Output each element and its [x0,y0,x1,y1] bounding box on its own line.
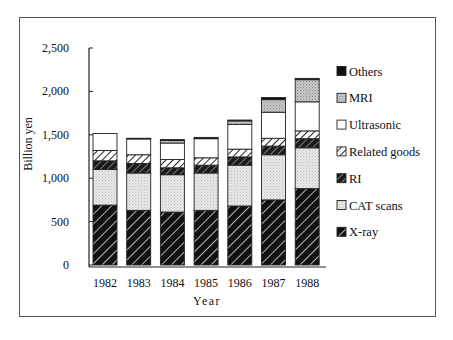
bar-segment-mri [228,121,252,124]
x-tick-label: 1986 [228,276,252,290]
bar-segment-ri [295,139,319,148]
x-tick-label: 1985 [194,276,218,290]
legend-swatch-icon [337,174,346,183]
y-axis-title: Billion yen [21,117,35,171]
legend-item-mri: MRI [337,91,373,105]
bar-segment-cat-scans [262,155,286,200]
bar-segment-ri [127,163,151,173]
bar-segment-others [262,97,286,99]
y-tick-label: 2,500 [42,41,69,55]
legend-item-x-ray: X-ray [337,225,379,239]
legend-swatch-icon [337,67,346,76]
legend-label: Ultrasonic [349,118,402,132]
bar-segment-cat-scans [228,165,252,206]
bar-1988 [295,78,319,265]
bar-1987 [262,97,286,265]
bar-segment-ultrasonic [228,124,252,149]
bar-segment-ri [160,168,184,175]
bar-segment-others [194,137,218,138]
legend-swatch-icon [337,227,346,236]
bar-segment-x-ray [93,205,117,265]
legend-swatch-icon [337,147,346,156]
legend-item-ri: RI [337,172,362,186]
bar-segment-x-ray [295,189,319,265]
legend-label: Others [349,65,382,79]
bar-segment-cat-scans [93,170,117,206]
bar-1984 [160,140,184,265]
bar-segment-cat-scans [194,173,218,210]
bar-segment-related-goods [93,150,117,160]
bar-segment-others [127,138,151,139]
y-tick-label: 2,000 [42,84,69,98]
bar-segment-cat-scans [295,148,319,189]
bar-segment-others [295,78,319,79]
bar-1983 [127,138,151,265]
bar-segment-x-ray [262,200,286,265]
x-tick-label: 1984 [160,276,184,290]
bar-segment-ultrasonic [262,112,286,138]
legend-swatch-icon [337,93,346,102]
legend-item-cat-scans: CAT scans [337,199,403,213]
x-tick-label: 1982 [93,276,117,290]
bar-segment-related-goods [127,155,151,164]
bar-segment-related-goods [194,158,218,165]
bar-segment-others [228,120,252,121]
legend-swatch-icon [337,201,346,210]
bar-1982 [93,133,117,265]
bar-segment-mri [262,100,286,113]
bar-segment-related-goods [160,160,184,168]
y-tick-label: 500 [51,215,69,229]
y-tick-label: 0 [63,258,69,272]
legend-label: Related goods [349,145,420,159]
bar-segment-x-ray [228,206,252,265]
bar-segment-ultrasonic [127,139,151,155]
bar-segment-ri [228,157,252,165]
chart-legend: OthersMRIUltrasonicRelated goodsRICAT sc… [337,65,420,240]
bar-segment-ultrasonic [93,133,117,150]
x-tick-label: 1983 [127,276,151,290]
legend-label: X-ray [349,225,379,239]
bar-segment-related-goods [295,131,319,139]
legend-item-others: Others [337,65,382,79]
legend-item-related-goods: Related goods [337,145,420,159]
y-tick-label: 1,000 [42,171,69,185]
bar-segment-ultrasonic [160,143,184,159]
bar-segment-ultrasonic [194,139,218,158]
legend-label: CAT scans [349,199,403,213]
bar-segment-related-goods [228,149,252,157]
bar-segment-related-goods [262,138,286,146]
bar-segment-x-ray [160,212,184,265]
bar-segment-ri [262,146,286,155]
bar-segment-others [160,140,184,141]
legend-swatch-icon [337,120,346,129]
bar-1986 [228,120,252,265]
bar-1985 [194,137,218,265]
bar-segment-ri [93,161,117,170]
legend-label: MRI [349,91,373,105]
bar-segment-ri [194,165,218,173]
legend-label: RI [349,172,362,186]
y-tick-label: 1,500 [42,128,69,142]
x-axis-title: Year [193,294,221,308]
bar-segment-mri [295,80,319,102]
bar-segment-ultrasonic [295,102,319,131]
stacked-bar-chart: 05001,0001,5002,0002,500Billion yen19821… [0,0,453,340]
bar-segment-x-ray [194,210,218,265]
bar-segment-cat-scans [160,175,184,212]
bar-segment-x-ray [127,210,151,265]
x-tick-label: 1988 [295,276,319,290]
legend-item-ultrasonic: Ultrasonic [337,118,402,132]
bar-segment-cat-scans [127,173,151,210]
x-tick-label: 1987 [262,276,286,290]
